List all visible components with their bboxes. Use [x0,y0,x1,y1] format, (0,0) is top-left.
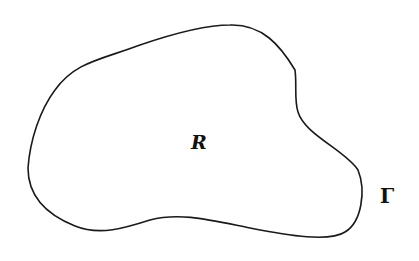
diagram-canvas: R Γ [0,0,419,261]
region-label: R [191,131,207,153]
region-boundary-curve [0,0,419,261]
boundary-label: Γ [380,184,394,208]
